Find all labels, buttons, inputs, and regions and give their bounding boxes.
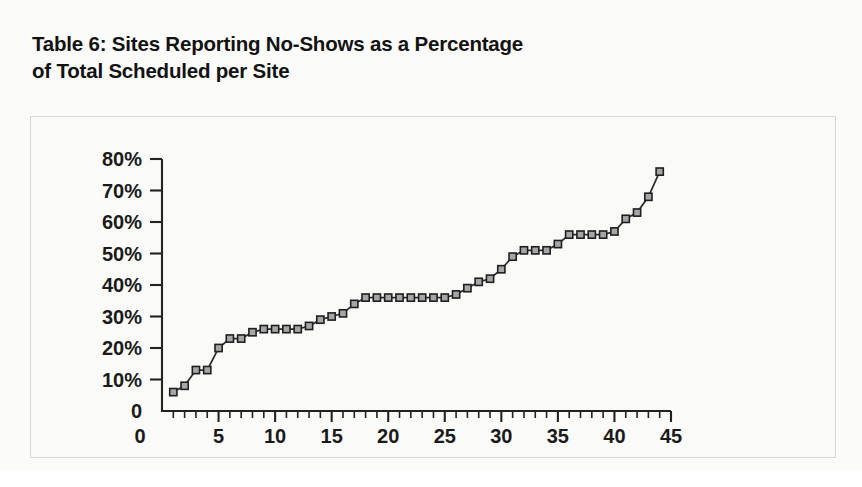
svg-text:25: 25 bbox=[434, 425, 456, 447]
figure-block: Table 6: Sites Reporting No-Shows as a P… bbox=[0, 0, 862, 470]
svg-text:40%: 40% bbox=[102, 274, 142, 296]
series-line-no-shows bbox=[173, 172, 659, 393]
svg-text:10%: 10% bbox=[102, 369, 142, 391]
svg-text:10: 10 bbox=[264, 425, 286, 447]
series-markers-no-shows bbox=[170, 168, 664, 396]
chart-plot: 010%20%30%40%50%60%70%80% 05101520253035… bbox=[31, 117, 837, 459]
svg-text:50%: 50% bbox=[102, 243, 142, 265]
svg-text:80%: 80% bbox=[102, 148, 142, 170]
svg-text:20%: 20% bbox=[102, 337, 142, 359]
axis-lines bbox=[162, 159, 671, 411]
x-axis-ticks bbox=[173, 411, 671, 422]
page-title: Table 6: Sites Reporting No-Shows as a P… bbox=[32, 30, 672, 84]
svg-text:5: 5 bbox=[213, 425, 224, 447]
svg-text:40: 40 bbox=[603, 425, 625, 447]
svg-text:70%: 70% bbox=[102, 180, 142, 202]
svg-text:0: 0 bbox=[131, 400, 142, 422]
svg-text:60%: 60% bbox=[102, 211, 142, 233]
svg-text:15: 15 bbox=[321, 425, 343, 447]
svg-text:35: 35 bbox=[547, 425, 569, 447]
y-axis-ticks bbox=[150, 159, 162, 380]
svg-text:20: 20 bbox=[377, 425, 399, 447]
svg-text:45: 45 bbox=[660, 425, 682, 447]
chart-frame: 010%20%30%40%50%60%70%80% 05101520253035… bbox=[30, 116, 836, 458]
x-axis-tick-labels: 051015202530354045 bbox=[134, 425, 682, 447]
svg-text:30: 30 bbox=[490, 425, 512, 447]
y-axis-tick-labels: 010%20%30%40%50%60%70%80% bbox=[102, 148, 142, 422]
svg-text:30%: 30% bbox=[102, 306, 142, 328]
svg-text:0: 0 bbox=[134, 425, 145, 447]
